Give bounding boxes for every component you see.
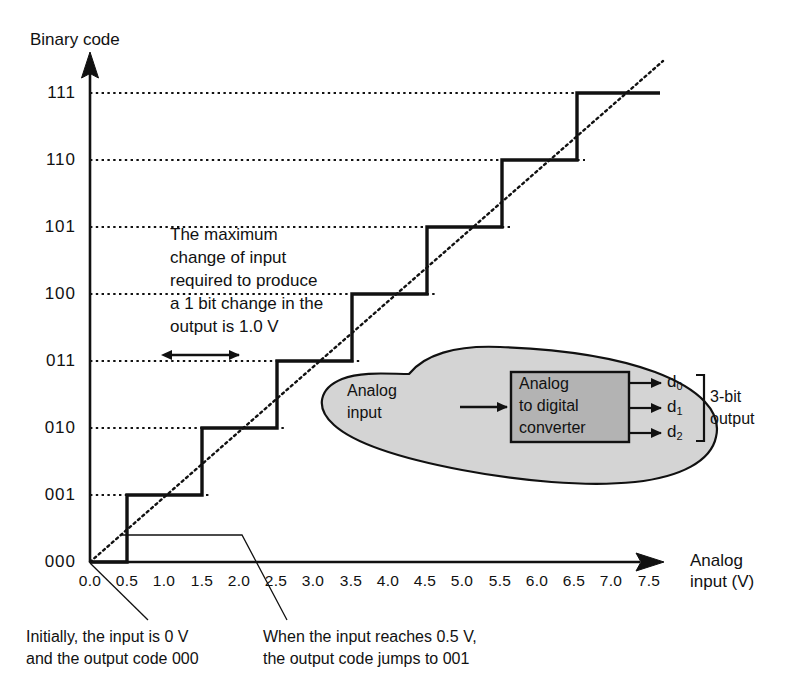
- annotation-max-change-line3: required to produce: [170, 270, 317, 292]
- adc-transfer-characteristic-figure: Binary code 111 110 101 100 011 010 001 …: [0, 0, 811, 689]
- y-tick-000: 000: [24, 552, 76, 572]
- output-group-line2: output: [710, 409, 754, 429]
- x-tick-4: 2.0: [219, 572, 259, 590]
- caption-jump-line1: When the input reaches 0.5 V,: [263, 626, 477, 647]
- adc-output-d2-sub: 2: [676, 430, 682, 442]
- x-tick-10: 5.0: [442, 572, 482, 590]
- x-tick-1: 0.5: [107, 572, 147, 590]
- output-group-line1: 3-bit: [710, 387, 741, 407]
- adc-converter-line1: Analog: [519, 374, 569, 394]
- x-tick-9: 4.5: [405, 572, 445, 590]
- x-tick-8: 4.0: [368, 572, 408, 590]
- adc-converter-line3: converter: [519, 418, 586, 438]
- x-tick-6: 3.0: [293, 572, 333, 590]
- x-tick-2: 1.0: [144, 572, 184, 590]
- x-tick-0: 0.0: [70, 572, 110, 590]
- adc-output-label-d0: d0: [667, 372, 683, 393]
- annotation-max-change-line1: The maximum: [170, 224, 278, 246]
- x-axis-arrowhead: [636, 553, 664, 571]
- x-axis-title-line1: Analog: [690, 551, 743, 571]
- x-tick-3: 1.5: [182, 572, 222, 590]
- caption-initial-line2: and the output code 000: [26, 648, 199, 669]
- x-tick-15: 7.5: [629, 572, 669, 590]
- adc-output-d1-sub: 1: [676, 405, 682, 417]
- caption-initial-line1: Initially, the input is 0 V: [26, 626, 188, 647]
- y-tick-010: 010: [24, 418, 76, 438]
- adc-converter-line2: to digital: [519, 396, 579, 416]
- y-tick-101: 101: [24, 217, 76, 237]
- x-tick-5: 2.5: [256, 572, 296, 590]
- adc-output-d0-sub: 0: [676, 380, 682, 392]
- x-tick-13: 6.5: [554, 572, 594, 590]
- x-tick-7: 3.5: [331, 572, 371, 590]
- y-tick-111: 111: [24, 83, 76, 103]
- adc-input-label-line2: input: [347, 403, 382, 423]
- y-tick-011: 011: [24, 351, 76, 371]
- y-tick-001: 001: [24, 485, 76, 505]
- annotation-max-change-line5: output is 1.0 V: [170, 316, 279, 338]
- annotation-max-change-line4: a 1 bit change in the: [170, 293, 323, 315]
- y-axis-title: Binary code: [30, 30, 120, 50]
- y-tick-110: 110: [24, 150, 76, 170]
- adc-output-label-d1: d1: [667, 397, 683, 418]
- y-tick-100: 100: [24, 284, 76, 304]
- annotation-max-change-line2: change of input: [170, 247, 286, 269]
- x-tick-12: 6.0: [517, 572, 557, 590]
- x-tick-14: 7.0: [591, 572, 631, 590]
- caption-jump-line2: the output code jumps to 001: [263, 648, 469, 669]
- adc-output-label-d2: d2: [667, 422, 683, 443]
- x-axis-title-line2: input (V): [690, 572, 754, 592]
- adc-input-label-line1: Analog: [347, 381, 397, 401]
- x-tick-11: 5.5: [480, 572, 520, 590]
